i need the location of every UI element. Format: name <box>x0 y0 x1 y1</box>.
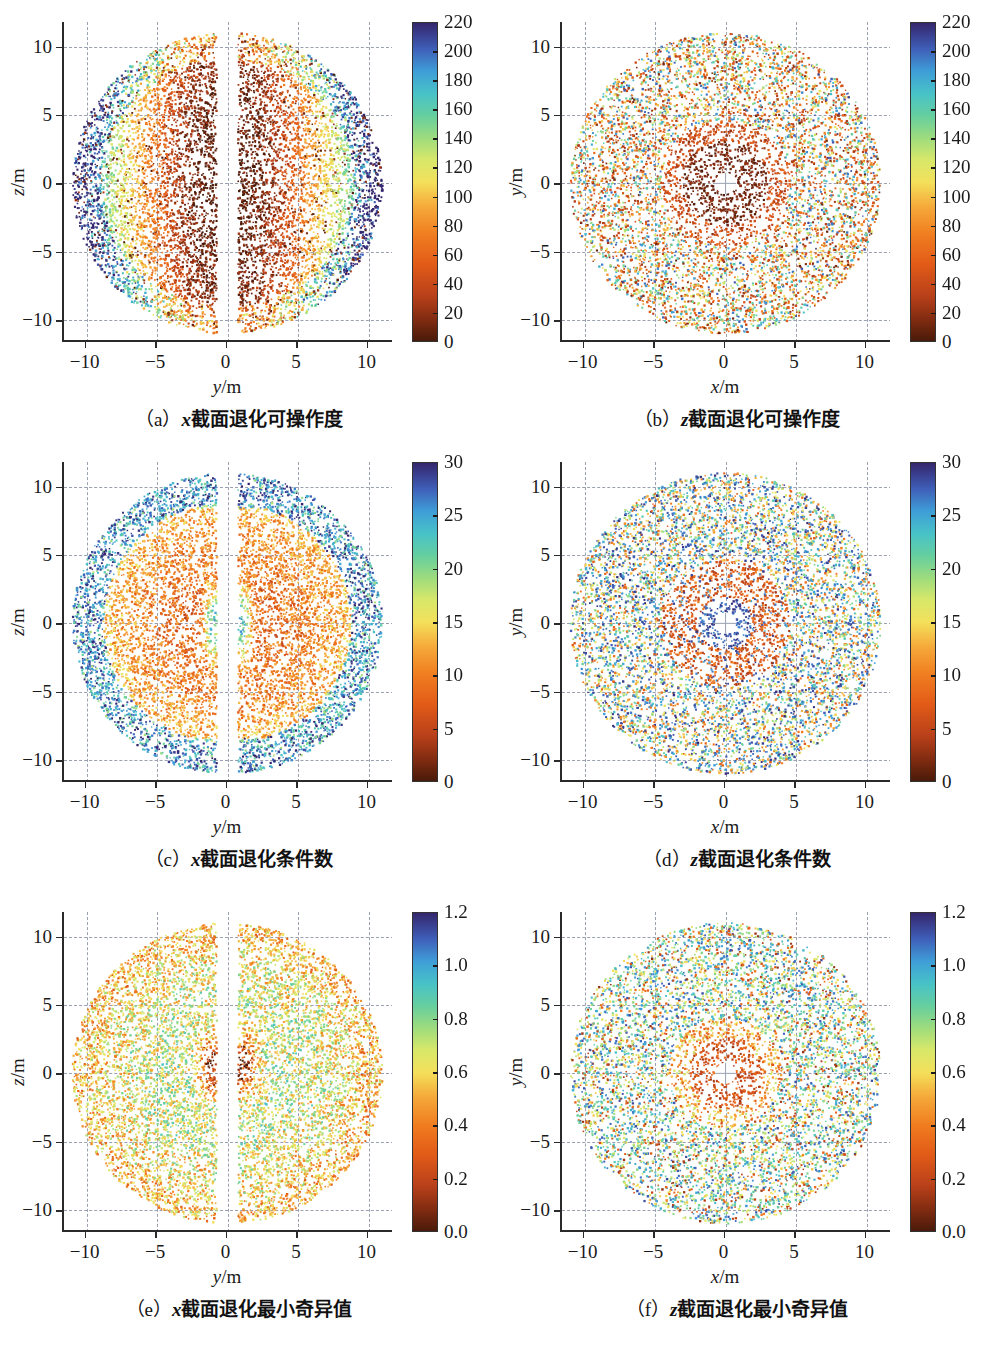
y-tick <box>554 320 560 322</box>
y-tick <box>56 555 62 557</box>
y-tick <box>56 623 62 625</box>
colorbar-tick <box>433 965 438 967</box>
y-tick <box>554 760 560 762</box>
colorbar-tick <box>433 1179 438 1181</box>
y-tick-label: 5 <box>541 544 551 566</box>
y-axis-label: z/m <box>7 1058 29 1085</box>
y-tick <box>554 252 560 254</box>
scatter-points-f <box>562 912 890 1232</box>
x-tick <box>226 1232 228 1238</box>
x-tick <box>85 342 87 348</box>
y-tick-label: −10 <box>520 749 550 771</box>
y-tick <box>56 1073 62 1075</box>
colorbar-tick <box>931 515 936 517</box>
colorbar-tick-label: 0.4 <box>942 1114 966 1136</box>
colorbar-tick <box>931 729 936 731</box>
plot-area-b <box>560 22 890 342</box>
colorbar-tick-label: 0.4 <box>444 1114 468 1136</box>
plot-area-a <box>62 22 392 342</box>
colorbar-tick-label: 0 <box>942 771 952 793</box>
x-axis-label: y/m <box>213 376 242 398</box>
colorbar-tick-label: 140 <box>444 127 473 149</box>
colorbar-tick <box>433 729 438 731</box>
y-tick-label: 10 <box>531 36 550 58</box>
colorbar-tick-label: 120 <box>444 156 473 178</box>
colorbar-tick-label: 60 <box>942 244 961 266</box>
colorbar-tick-label: 40 <box>942 273 961 295</box>
x-tick <box>155 782 157 788</box>
colorbar-tick-label: 10 <box>444 664 463 686</box>
y-tick-label: 10 <box>33 36 52 58</box>
colorbar-tick-label: 15 <box>444 611 463 633</box>
x-tick-label: −10 <box>568 351 598 373</box>
colorbar-tick <box>433 515 438 517</box>
panel-caption-c: （c）x截面退化条件数 <box>145 844 334 871</box>
x-tick <box>85 782 87 788</box>
y-tick <box>554 1073 560 1075</box>
colorbar-gradient <box>413 23 437 341</box>
colorbar-tick-label: 100 <box>942 186 971 208</box>
colorbar-tick <box>931 313 936 315</box>
y-tick-label: 5 <box>43 544 53 566</box>
y-axis-label: y/m <box>505 608 527 637</box>
colorbar-tick-label: 0 <box>942 331 952 353</box>
colorbar-tick-label: 200 <box>942 40 971 62</box>
colorbar-tick-label: 200 <box>444 40 473 62</box>
chart-panel-c: −10−50510−10−50510y/mz/m051015202530（c）x… <box>0 440 498 890</box>
x-tick-label: 10 <box>855 791 874 813</box>
y-tick-label: 0 <box>541 612 551 634</box>
y-axis-label: z/m <box>7 168 29 195</box>
colorbar-tick <box>433 197 438 199</box>
y-axis-label: y/m <box>505 168 527 197</box>
colorbar-tick <box>433 109 438 111</box>
y-tick-label: −10 <box>520 1199 550 1221</box>
y-tick <box>56 1142 62 1144</box>
plot-area-e <box>62 912 392 1232</box>
chart-panel-b: −10−50510−10−50510x/my/m0204060801001201… <box>498 0 996 440</box>
y-tick <box>56 320 62 322</box>
x-tick-label: 5 <box>291 351 301 373</box>
y-tick <box>554 487 560 489</box>
colorbar-tick <box>433 138 438 140</box>
x-tick-label: −5 <box>145 791 165 813</box>
y-tick-label: −5 <box>32 681 52 703</box>
x-tick <box>85 1232 87 1238</box>
colorbar-tick-label: 0.6 <box>444 1061 468 1083</box>
x-tick-label: −10 <box>568 1241 598 1263</box>
y-tick-label: 10 <box>531 476 550 498</box>
x-tick-label: −5 <box>643 791 663 813</box>
colorbar-tick-label: 0.8 <box>444 1008 468 1030</box>
y-tick-label: 0 <box>43 172 53 194</box>
x-tick <box>296 1232 298 1238</box>
x-tick-label: 5 <box>291 791 301 813</box>
x-tick <box>653 342 655 348</box>
plot-area-d <box>560 462 890 782</box>
colorbar-tick-label: 25 <box>444 504 463 526</box>
y-tick-label: −5 <box>530 1131 550 1153</box>
colorbar-tick-label: 0 <box>444 771 454 793</box>
scatter-points-e <box>64 912 392 1232</box>
colorbar-tick-label: 180 <box>444 69 473 91</box>
colorbar-tick <box>433 80 438 82</box>
colorbar-tick <box>433 255 438 257</box>
colorbar-tick-label: 20 <box>444 302 463 324</box>
colorbar-tick <box>433 1019 438 1021</box>
colorbar-tick-label: 160 <box>942 98 971 120</box>
y-tick-label: 0 <box>43 1062 53 1084</box>
scatter-points-a <box>64 22 392 342</box>
colorbar-tick <box>931 255 936 257</box>
colorbar-tick <box>433 167 438 169</box>
x-tick-label: 0 <box>719 791 729 813</box>
x-tick-label: −5 <box>643 351 663 373</box>
x-axis-label: x/m <box>711 1266 740 1288</box>
y-tick-label: 0 <box>541 1062 551 1084</box>
colorbar-tick-label: 0.0 <box>942 1221 966 1243</box>
x-tick <box>367 342 369 348</box>
colorbar-tick-label: 0.6 <box>942 1061 966 1083</box>
colorbar-tick <box>931 1072 936 1074</box>
chart-panel-e: −10−50510−10−50510y/mz/m0.00.20.40.60.81… <box>0 890 498 1340</box>
y-tick <box>56 1005 62 1007</box>
y-tick-label: −5 <box>530 241 550 263</box>
x-tick-label: −10 <box>70 1241 100 1263</box>
x-tick-label: 10 <box>855 351 874 373</box>
